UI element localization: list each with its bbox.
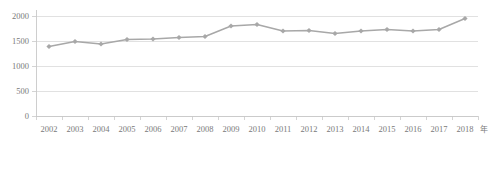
x-axis-tick-label: 2005 <box>119 124 136 134</box>
series-data-point <box>46 44 51 49</box>
x-axis-tick-label: 2009 <box>223 124 240 134</box>
y-axis-tick-label: 1000 <box>12 61 29 71</box>
x-axis-unit-label: 年 <box>480 124 488 134</box>
x-axis-tick-label: 2006 <box>145 124 162 134</box>
x-axis-tick-labels-group: 2002200320042005200620072008200920102011… <box>41 124 474 134</box>
x-axis-tick-label: 2018 <box>457 124 474 134</box>
x-axis-tick-label: 2008 <box>197 124 214 134</box>
chart-canvas: 0500100015002000 20022003200420052006200… <box>0 0 496 170</box>
series-data-point <box>254 22 259 27</box>
x-axis-tick-label: 2010 <box>249 124 266 134</box>
series-data-point <box>72 39 77 44</box>
series-markers-group <box>46 16 467 49</box>
x-axis-tick-label: 2007 <box>171 124 188 134</box>
series-data-point <box>306 28 311 33</box>
series-data-point <box>228 23 233 28</box>
series-data-point <box>436 27 441 32</box>
x-axis-tick-label: 2015 <box>379 124 396 134</box>
y-axis-tick-labels-group: 0500100015002000 <box>12 11 29 121</box>
series-data-point <box>98 41 103 46</box>
series-data-point <box>462 16 467 21</box>
x-axis-tick-label: 2016 <box>405 124 422 134</box>
series-data-point <box>176 35 181 40</box>
series-data-point <box>202 34 207 39</box>
y-axis-tick-label: 500 <box>16 86 29 96</box>
series-data-point <box>358 28 363 33</box>
x-axis-tick-label: 2014 <box>353 124 371 134</box>
x-axis-tick-label: 2011 <box>275 124 292 134</box>
x-axis-tick-label: 2003 <box>67 124 84 134</box>
series-data-point <box>280 28 285 33</box>
y-axis-tick-label: 0 <box>25 111 29 121</box>
x-axis-tick-marks-group <box>36 116 478 120</box>
x-axis-tick-label: 2002 <box>41 124 58 134</box>
series-data-point <box>384 27 389 32</box>
y-axis-tick-label: 1500 <box>12 36 29 46</box>
x-axis-tick-label: 2013 <box>327 124 344 134</box>
series-data-point <box>410 28 415 33</box>
x-axis-tick-label: 2004 <box>93 124 111 134</box>
x-axis-tick-label: 2012 <box>301 124 318 134</box>
y-axis-tick-label: 2000 <box>12 11 29 21</box>
line-chart-figure: 0500100015002000 20022003200420052006200… <box>0 0 496 170</box>
x-axis-tick-label: 2017 <box>431 124 448 134</box>
series-data-point <box>332 31 337 36</box>
